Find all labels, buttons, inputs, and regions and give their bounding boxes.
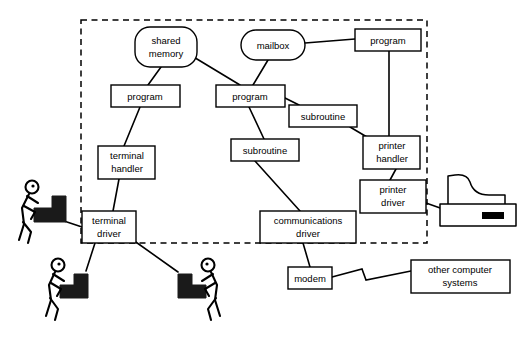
terminal-desk-icon — [178, 274, 206, 298]
node-printer-driver[interactable]: printer driver — [360, 180, 426, 213]
terminal-driver-label-line2: driver — [97, 228, 121, 239]
stick-figure-arm-upper — [53, 274, 64, 281]
node-mailbox[interactable]: mailbox — [241, 30, 305, 60]
node-program-mid[interactable]: program — [216, 85, 285, 107]
stick-figure-eye-icon — [205, 262, 208, 265]
edge-terminal-driver-to-terminal-3 — [133, 240, 178, 272]
printer-handler-label-line2: handler — [376, 153, 408, 164]
stick-figure-eye-icon — [57, 262, 60, 265]
printer-driver-label-line1: printer — [380, 184, 407, 195]
node-terminal-handler[interactable]: terminal handler — [98, 146, 155, 179]
edge-mailbox-to-program-mid — [253, 60, 268, 85]
node-subroutine-lower[interactable]: subroutine — [231, 139, 299, 161]
terminal-desk-icon — [60, 274, 88, 298]
edge-program-left-to-terminal-handler — [124, 107, 140, 146]
edge-printer-handler-to-printer-driver — [390, 169, 396, 180]
diagram-canvas: shared memory mailbox program program pr… — [0, 0, 527, 340]
node-program-right[interactable]: program — [355, 29, 421, 51]
other-computer-systems-label-line1: other computer — [428, 264, 492, 275]
mailbox-label: mailbox — [257, 40, 290, 51]
edge-shared-memory-to-program-mid — [192, 56, 240, 85]
stick-figure-arm-upper — [27, 196, 38, 203]
stick-figure-body — [19, 194, 29, 240]
subroutine-upper-label: subroutine — [301, 111, 345, 122]
node-program-left[interactable]: program — [111, 85, 180, 107]
stick-figure-leg — [23, 222, 31, 243]
terminal-desk-icon — [34, 196, 66, 222]
edge-subroutine-lower-to-comms-driver — [255, 161, 300, 211]
shared-memory-label-line2: memory — [149, 48, 184, 59]
edge-comms-driver-to-modem — [303, 243, 310, 267]
node-modem[interactable]: modem — [288, 267, 332, 289]
program-left-label: program — [127, 91, 162, 102]
program-right-label: program — [370, 35, 405, 46]
other-computer-systems-label-line2: systems — [443, 277, 478, 288]
shared-memory-label-line1: shared — [151, 35, 180, 46]
edge-modem-to-other-systems-zigzag — [332, 269, 411, 280]
edge-mailbox-to-program-right — [305, 39, 355, 43]
node-shared-memory[interactable]: shared memory — [135, 27, 197, 67]
stick-figure-leg — [50, 298, 58, 320]
stick-figure-body — [46, 272, 55, 316]
node-communications-driver[interactable]: communications driver — [260, 211, 356, 243]
terminal-handler-label-line2: handler — [111, 163, 143, 174]
stick-figure-body — [211, 272, 220, 316]
program-mid-label: program — [232, 91, 267, 102]
node-printer-handler[interactable]: printer handler — [363, 136, 420, 169]
edge-terminal-driver-to-terminal-1 — [64, 221, 82, 227]
stick-figure-leg — [208, 298, 216, 320]
subroutine-lower-label: subroutine — [243, 145, 287, 156]
printer-device — [440, 175, 516, 226]
edge-shared-memory-to-program-left — [148, 67, 161, 85]
communications-driver-label-line1: communications — [274, 215, 343, 226]
stick-figure-arm-upper — [202, 274, 213, 281]
user-terminal-2 — [46, 259, 88, 321]
printer-paper-stack-icon — [448, 175, 505, 205]
user-terminal-3 — [178, 259, 220, 321]
terminal-handler-label-line1: terminal — [110, 150, 144, 161]
node-subroutine-upper[interactable]: subroutine — [289, 105, 357, 127]
user-terminal-1 — [19, 181, 66, 244]
terminal-driver-label-line1: terminal — [92, 215, 126, 226]
node-other-computer-systems[interactable]: other computer systems — [411, 260, 510, 293]
printer-driver-label-line2: driver — [381, 197, 405, 208]
modem-label: modem — [294, 273, 326, 284]
system-structure-diagram: shared memory mailbox program program pr… — [0, 0, 527, 340]
stick-figure-eye-icon — [31, 184, 34, 187]
node-terminal-driver[interactable]: terminal driver — [82, 211, 136, 243]
printer-slot-icon — [482, 212, 504, 219]
edge-program-mid-to-subroutine-lower — [249, 107, 264, 139]
communications-driver-label-line2: driver — [296, 228, 320, 239]
edge-program-mid-to-subroutine-upper — [285, 98, 299, 105]
edge-terminal-driver-to-terminal-2 — [86, 243, 95, 271]
printer-handler-label-line1: printer — [379, 140, 406, 151]
stick-figure-arm-lower — [24, 206, 35, 219]
printer-body-icon — [440, 204, 516, 226]
edge-terminal-handler-to-terminal-driver — [113, 179, 119, 211]
